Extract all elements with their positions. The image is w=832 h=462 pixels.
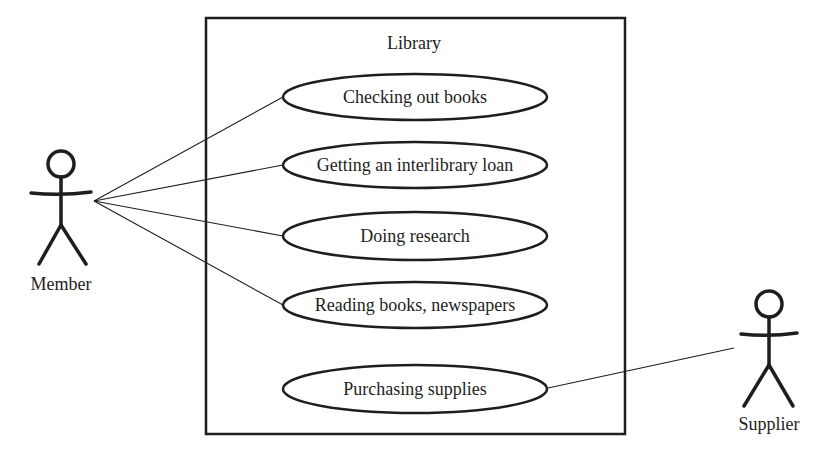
use-case-checking-out-books: Checking out books — [283, 74, 547, 120]
use-case-interlibrary-loan: Getting an interlibrary loan — [283, 142, 547, 188]
use-case-diagram: Library Checking out books Getting an in… — [0, 0, 832, 462]
association-supplier-purchasing — [548, 348, 734, 388]
use-case-doing-research: Doing research — [283, 212, 547, 260]
use-case-label: Getting an interlibrary loan — [317, 155, 513, 175]
stick-figure-right-leg — [769, 365, 793, 406]
use-case-label: Doing research — [360, 226, 469, 246]
association-member-checking-out — [94, 97, 283, 201]
use-case-purchasing-supplies: Purchasing supplies — [283, 365, 547, 413]
stick-figure-left-leg — [39, 225, 61, 264]
association-member-research — [94, 201, 283, 236]
stick-figure-head-icon — [756, 291, 782, 317]
association-member-interlibrary-loan — [94, 165, 283, 201]
stick-figure-right-leg — [61, 225, 86, 264]
stick-figure-left-leg — [744, 365, 769, 406]
use-case-label: Reading books, newspapers — [315, 295, 515, 315]
actor-label-supplier: Supplier — [739, 414, 800, 434]
actor-label-member: Member — [31, 274, 92, 294]
use-case-label: Checking out books — [343, 87, 487, 107]
use-case-reading-books: Reading books, newspapers — [283, 282, 547, 328]
actor-member — [31, 151, 91, 264]
stick-figure-head-icon — [48, 151, 74, 177]
system-title: Library — [387, 33, 441, 53]
use-case-label: Purchasing supplies — [343, 379, 487, 399]
actor-supplier — [741, 291, 797, 406]
association-member-reading — [94, 201, 283, 305]
